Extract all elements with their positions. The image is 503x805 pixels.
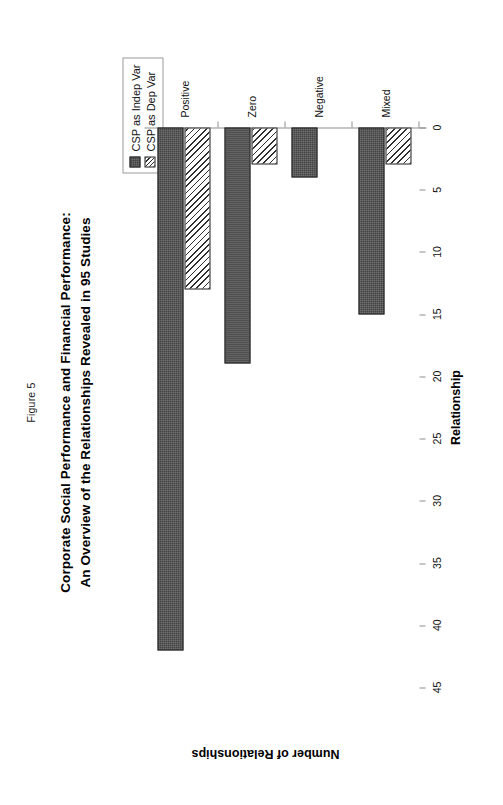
category-label-mixed: Mixed [379,69,391,125]
value-tick [419,189,425,190]
category-tick [418,121,419,127]
value-tick-label: 25 [430,421,442,455]
value-tick-label: 40 [430,608,442,642]
value-tick-label: 5 [430,172,442,206]
figure-title-line-2: An Overview of the Relationships Reveale… [75,107,95,697]
rotated-figure-canvas: Figure 5 Corporate Social Performance an… [0,0,503,805]
bar-negative-series-1[interactable] [291,127,317,177]
value-tick [419,251,425,252]
category-label-positive: Positive [178,69,190,125]
value-tick-label: 30 [430,483,442,517]
figure-title: Corporate Social Performance and Financi… [55,107,95,697]
value-tick [419,625,425,626]
category-label-zero: Zero [245,69,257,125]
legend-swatch-icon-indep [129,156,140,167]
figure: Figure 5 Corporate Social Performance an… [0,0,503,805]
value-tick [419,687,425,688]
value-tick-label: 20 [430,359,442,393]
category-tick [351,121,352,127]
bar-mixed-series-1[interactable] [358,127,384,314]
legend-item-indep[interactable]: CSP as Indep Var [127,64,142,167]
value-tick [419,127,425,128]
bar-zero-series-2[interactable] [251,127,277,164]
value-tick-label: 45 [430,670,442,704]
value-tick-label: 15 [430,297,442,331]
bar-positive-series-2[interactable] [184,127,210,289]
value-tick-label: 10 [430,234,442,268]
category-tick [217,121,218,127]
x-axis-title: Relationship [448,127,462,687]
value-tick-label: 35 [430,546,442,580]
value-tick [419,376,425,377]
value-tick [419,500,425,501]
category-label-negative: Negative [312,69,324,125]
y-axis-title: Number of Relationships [155,746,375,760]
bar-mixed-series-2[interactable] [385,127,411,164]
figure-number-label: Figure 5 [24,267,36,537]
bar-positive-series-1[interactable] [157,127,183,650]
figure-title-line-1: Corporate Social Performance and Financi… [57,212,72,593]
value-tick [419,314,425,315]
category-tick [284,121,285,127]
legend-label-indep: CSP as Indep Var [129,64,141,151]
plot-area: 051015202530354045 PositiveZeroNegativeM… [150,127,418,687]
value-tick [419,438,425,439]
value-tick [419,563,425,564]
bar-zero-series-1[interactable] [224,127,250,363]
value-tick-label: 0 [430,110,442,144]
